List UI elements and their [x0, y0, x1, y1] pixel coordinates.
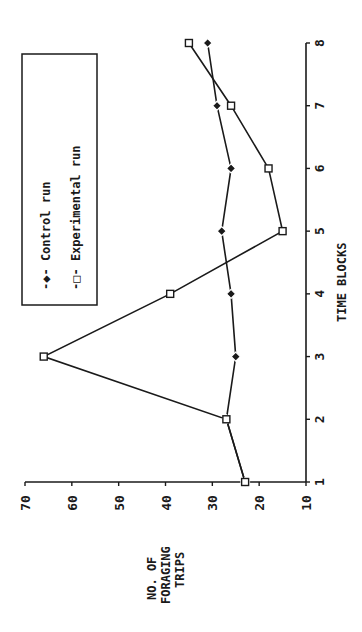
legend: -◆- Control run -□- Experimental run [22, 54, 97, 305]
y-tick-label: 20 [252, 495, 267, 511]
square-marker [265, 165, 272, 172]
diamond-marker [217, 227, 226, 236]
diamond-marker [231, 352, 240, 361]
diamond-marker [203, 39, 212, 48]
y-axis-title-line-1: NO. OF [145, 557, 159, 600]
y-tick-label: 30 [205, 495, 220, 511]
y-axis-title-line-2: FORAGING [159, 546, 173, 604]
legend-box [22, 54, 97, 305]
square-marker [228, 102, 235, 109]
x-axis-title: TIME BLOCKS [335, 243, 349, 322]
diamond-marker [227, 164, 236, 173]
y-tick-label: 40 [159, 495, 174, 511]
square-marker [185, 40, 192, 47]
x-tick-label: 7 [312, 102, 327, 110]
diamond-marker [227, 289, 236, 298]
square-marker [223, 416, 230, 423]
legend-item-experimental: -□- Experimental run [69, 146, 83, 291]
x-tick-label: 6 [312, 164, 327, 172]
y-axis-title: NO. OF FORAGING TRIPS [145, 546, 187, 604]
line-chart: 1020304050607012345678 -◆- Control run -… [0, 0, 362, 632]
diamond-marker [213, 101, 222, 110]
y-tick-label: 70 [18, 495, 33, 511]
y-tick-label: 60 [65, 495, 80, 511]
x-tick-label: 1 [312, 478, 327, 486]
x-tick-label: 3 [312, 353, 327, 361]
x-tick-label: 5 [312, 227, 327, 235]
y-tick-label: 10 [299, 495, 314, 511]
x-tick-label: 4 [312, 290, 327, 298]
y-tick-label: 50 [112, 495, 127, 511]
square-marker [167, 290, 174, 297]
x-tick-label: 8 [312, 39, 327, 47]
legend-item-control: -◆- Control run [39, 182, 53, 290]
square-marker [40, 353, 47, 360]
square-marker [242, 479, 249, 486]
y-axis-title-line-3: TRIPS [173, 552, 187, 588]
x-tick-label: 2 [312, 415, 327, 423]
chart-canvas: 1020304050607012345678 -◆- Control run -… [0, 0, 362, 632]
square-marker [279, 228, 286, 235]
